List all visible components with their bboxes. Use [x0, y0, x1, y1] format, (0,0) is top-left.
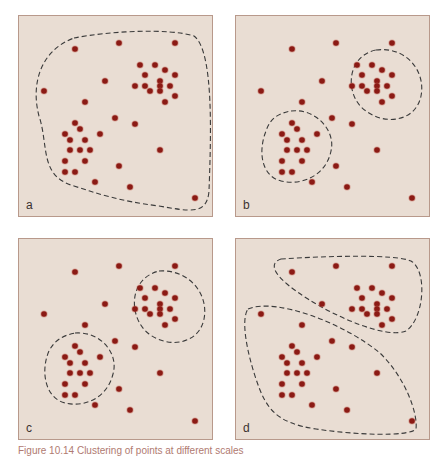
cluster-outline: [274, 256, 422, 332]
point-marker: [72, 269, 78, 275]
point-marker: [87, 370, 93, 376]
panel-label-b: b: [243, 198, 250, 212]
point-marker: [192, 195, 198, 201]
point-marker: [82, 381, 88, 387]
point-marker: [344, 184, 350, 190]
point-marker: [374, 88, 380, 94]
point-marker: [279, 158, 285, 164]
point-marker: [82, 322, 88, 328]
point-marker: [279, 381, 285, 387]
point-marker: [82, 137, 88, 143]
point-marker: [132, 121, 138, 127]
point-marker: [354, 62, 360, 68]
point-marker: [384, 306, 390, 312]
point-pattern-d: [236, 239, 431, 441]
point-marker: [389, 316, 395, 322]
cluster-outline: [45, 333, 114, 404]
point-marker: [294, 126, 300, 132]
point-marker: [72, 343, 78, 349]
point-marker: [62, 131, 68, 137]
panel-label-a: a: [26, 198, 33, 212]
point-marker: [157, 311, 163, 317]
point-marker: [62, 354, 68, 360]
point-marker: [77, 349, 83, 355]
point-marker: [172, 93, 178, 99]
point-marker: [289, 392, 295, 398]
point-marker: [349, 306, 355, 312]
point-marker: [333, 386, 339, 392]
point-marker: [62, 381, 68, 387]
point-marker: [284, 360, 290, 366]
point-marker: [379, 99, 385, 105]
point-marker: [299, 381, 305, 387]
point-marker: [172, 295, 178, 301]
point-marker: [284, 370, 290, 376]
point-marker: [389, 40, 395, 46]
point-marker: [116, 263, 122, 269]
point-marker: [77, 126, 83, 132]
cluster-outline: [36, 31, 210, 210]
point-marker: [77, 147, 83, 153]
point-marker: [82, 99, 88, 105]
point-marker: [67, 360, 73, 366]
point-marker: [92, 402, 98, 408]
point-marker: [333, 263, 339, 269]
point-marker: [379, 290, 385, 296]
point-marker: [333, 163, 339, 169]
point-marker: [258, 88, 264, 94]
point-marker: [319, 301, 325, 307]
point-marker: [162, 67, 168, 73]
point-marker: [142, 295, 148, 301]
point-marker: [116, 163, 122, 169]
point-marker: [116, 40, 122, 46]
point-marker: [172, 316, 178, 322]
point-marker: [72, 120, 78, 126]
cluster-outline: [245, 306, 416, 434]
point-marker: [284, 137, 290, 143]
point-marker: [389, 263, 395, 269]
point-marker: [284, 147, 290, 153]
point-marker: [142, 306, 148, 312]
point-marker: [62, 158, 68, 164]
point-marker: [77, 370, 83, 376]
point-marker: [379, 67, 385, 73]
point-marker: [309, 179, 315, 185]
point-marker: [162, 290, 168, 296]
point-marker: [389, 72, 395, 78]
point-marker: [289, 169, 295, 175]
point-marker: [409, 195, 415, 201]
point-marker: [289, 269, 295, 275]
panel-label-d: d: [243, 421, 250, 435]
point-marker: [142, 72, 148, 78]
point-marker: [172, 72, 178, 78]
point-marker: [41, 88, 47, 94]
point-marker: [279, 169, 285, 175]
point-marker: [147, 88, 153, 94]
point-marker: [369, 62, 375, 68]
figure-caption: Figure 10.14 Clustering of points at dif…: [18, 445, 244, 456]
point-marker: [162, 99, 168, 105]
point-marker: [132, 83, 138, 89]
point-marker: [87, 147, 93, 153]
point-marker: [299, 360, 305, 366]
point-marker: [379, 322, 385, 328]
point-marker: [374, 311, 380, 317]
point-marker: [389, 93, 395, 99]
point-marker: [389, 295, 395, 301]
point-marker: [258, 311, 264, 317]
point-marker: [344, 407, 350, 413]
point-marker: [41, 311, 47, 317]
point-marker: [62, 392, 68, 398]
point-marker: [157, 370, 163, 376]
point-marker: [294, 349, 300, 355]
point-marker: [142, 83, 148, 89]
point-marker: [279, 131, 285, 137]
point-pattern-a: [19, 16, 214, 218]
point-marker: [299, 158, 305, 164]
point-marker: [152, 285, 158, 291]
point-marker: [314, 354, 320, 360]
point-marker: [162, 322, 168, 328]
point-marker: [294, 147, 300, 153]
point-marker: [289, 120, 295, 126]
point-marker: [167, 306, 173, 312]
